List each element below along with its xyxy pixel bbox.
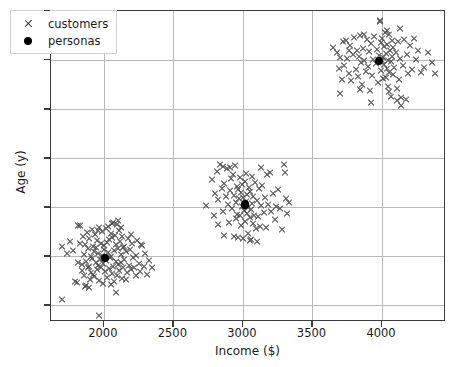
dot-marker-icon: [17, 34, 39, 48]
x-axis-tick-label: 3500: [297, 326, 326, 340]
y-axis-tick: [44, 255, 50, 256]
gridline-horizontal: [51, 305, 444, 306]
gridline-vertical: [312, 11, 313, 320]
legend-label-personas: personas: [39, 34, 100, 48]
x-axis-tick-label: 4000: [366, 326, 395, 340]
y-axis-tick: [44, 59, 50, 60]
y-axis-tick: [44, 10, 50, 11]
legend-entry-customers: customers: [17, 15, 108, 32]
cross-marker-icon: [17, 17, 39, 31]
x-axis-tick-label: 2000: [88, 326, 117, 340]
persona-centroid-marker: [241, 200, 250, 209]
y-axis-title: Age (y): [14, 92, 28, 252]
y-axis-tick: [44, 157, 50, 158]
y-axis-tick: [44, 108, 50, 109]
legend-label-customers: customers: [39, 17, 108, 31]
x-axis-tick-label: 3000: [227, 326, 256, 340]
gridline-vertical: [173, 11, 174, 320]
plot-area: [50, 10, 445, 321]
gridline-horizontal: [51, 158, 444, 159]
gridline-horizontal: [51, 109, 444, 110]
legend-entry-personas: personas: [17, 32, 108, 49]
y-axis-tick: [44, 304, 50, 305]
x-axis-title: Income ($): [50, 344, 445, 358]
y-axis-tick: [44, 206, 50, 207]
chart-legend: customers personas: [10, 10, 117, 54]
gridline-vertical: [243, 11, 244, 320]
x-axis-tick-label: 2500: [158, 326, 187, 340]
scatter-chart-figure: Income ($) Age (y) customers personas 15…: [0, 0, 455, 367]
